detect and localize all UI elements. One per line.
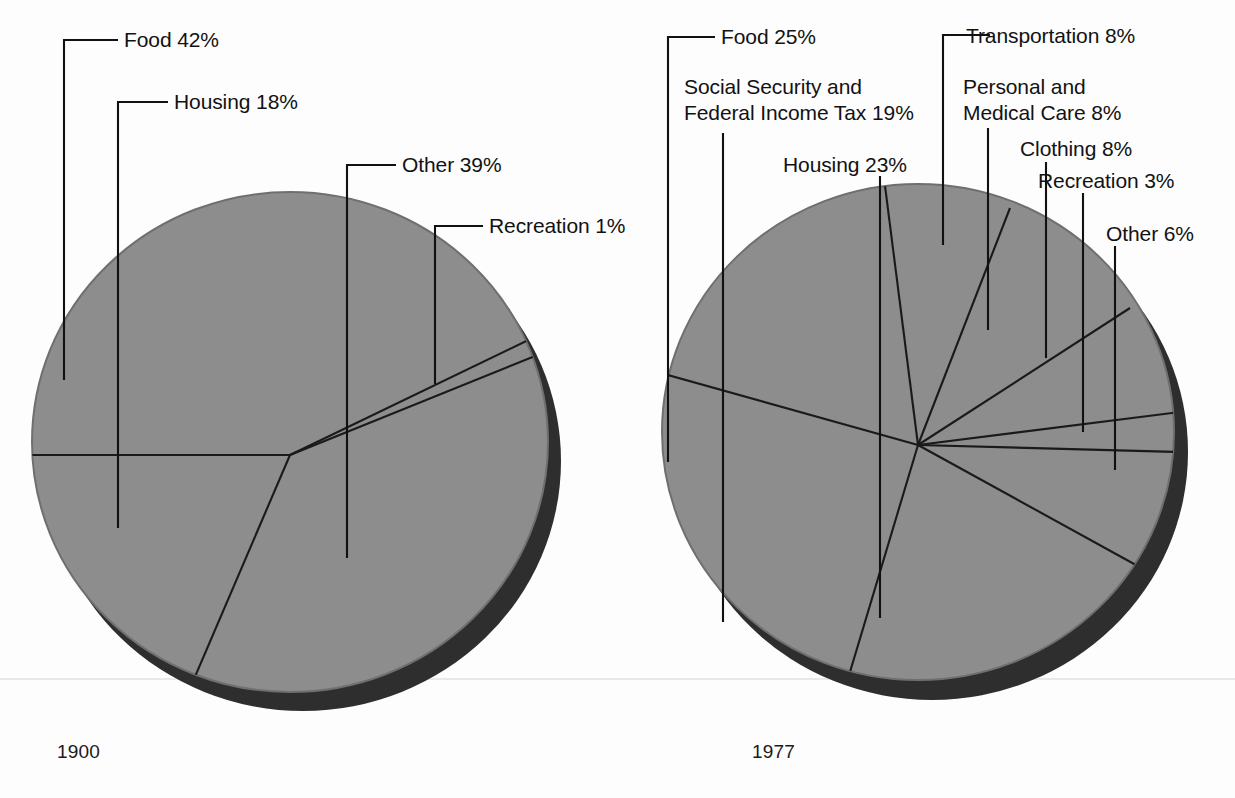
label-recreation-1900: Recreation 1% xyxy=(489,213,625,239)
right-pie-group xyxy=(650,178,1188,712)
label-transportation-1977: Transportation 8% xyxy=(966,23,1135,49)
right-pie-face xyxy=(662,184,1174,680)
label-personal-medical-line2-1977: Medical Care 8% xyxy=(963,100,1121,126)
year-label-1977: 1977 xyxy=(752,741,795,763)
label-social-security-line2-1977: Federal Income Tax 19% xyxy=(684,100,914,126)
label-personal-medical-line1-1977: Personal and xyxy=(963,74,1086,100)
label-food-1977: Food 25% xyxy=(721,24,816,50)
label-housing-1900: Housing 18% xyxy=(174,89,298,115)
left-pie-face xyxy=(32,192,548,692)
label-clothing-1977: Clothing 8% xyxy=(1020,136,1132,162)
label-other-1900: Other 39% xyxy=(402,152,502,178)
label-other-1977: Other 6% xyxy=(1106,221,1194,247)
label-recreation-1977: Recreation 3% xyxy=(1038,168,1174,194)
left-pie-group xyxy=(20,192,561,711)
year-label-1900: 1900 xyxy=(57,741,100,763)
label-food-1900: Food 42% xyxy=(124,27,219,53)
figure-canvas: Food 42% Housing 18% Other 39% Recreatio… xyxy=(0,0,1235,798)
label-housing-1977: Housing 23% xyxy=(783,152,907,178)
label-social-security-line1-1977: Social Security and xyxy=(684,74,862,100)
